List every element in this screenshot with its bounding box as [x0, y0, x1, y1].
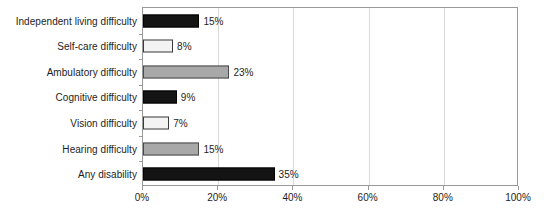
bar-value-label: 9% [181, 92, 195, 103]
bar [143, 142, 199, 155]
bar-value-label: 15% [203, 15, 223, 26]
bar-group: 35% [143, 168, 299, 181]
bar-value-label: 8% [177, 41, 191, 52]
bar-value-label: 7% [173, 118, 187, 129]
y-axis-tick [139, 136, 143, 137]
bar-group: 23% [143, 65, 253, 78]
category-label: Self-care difficulty [57, 41, 137, 52]
x-axis-tick [292, 186, 293, 190]
bar-row: Self-care difficulty8% [143, 34, 517, 60]
x-axis-tick [368, 186, 369, 190]
bar-group: 8% [143, 40, 192, 53]
x-axis-tick-label: 100% [505, 192, 531, 203]
bar [143, 40, 173, 53]
bar-chart: Independent living difficulty15%Self-car… [0, 0, 554, 216]
bar-row: Any disability35% [143, 161, 517, 187]
bar-row: Independent living difficulty15% [143, 8, 517, 34]
bar [143, 91, 177, 104]
y-axis-tick [139, 110, 143, 111]
category-label: Any disability [78, 169, 137, 180]
category-label: Ambulatory difficulty [47, 66, 137, 77]
y-axis-tick [139, 85, 143, 86]
bar-row: Hearing difficulty15% [143, 136, 517, 162]
bar [143, 168, 275, 181]
category-label: Hearing difficulty [62, 143, 137, 154]
x-axis-tick-label: 60% [358, 192, 378, 203]
category-label: Independent living difficulty [16, 15, 137, 26]
bar [143, 117, 169, 130]
y-axis-tick [139, 59, 143, 60]
x-axis-tick-label: 0% [135, 192, 149, 203]
bar-group: 15% [143, 14, 223, 27]
x-axis-tick [443, 186, 444, 190]
x-axis: 0%20%40%60%80%100% [142, 186, 518, 216]
bar-value-label: 35% [279, 169, 299, 180]
x-axis-tick-label: 40% [282, 192, 302, 203]
y-axis-tick [139, 161, 143, 162]
bar-row: Ambulatory difficulty23% [143, 59, 517, 85]
bar-row: Cognitive difficulty9% [143, 85, 517, 111]
x-axis-tick [217, 186, 218, 190]
x-axis-tick [518, 186, 519, 190]
category-label: Cognitive difficulty [56, 92, 137, 103]
category-label: Vision difficulty [70, 118, 137, 129]
x-axis-tick [142, 186, 143, 190]
bar [143, 14, 199, 27]
plot-area: Independent living difficulty15%Self-car… [142, 7, 518, 186]
y-axis-tick [139, 34, 143, 35]
bar-group: 15% [143, 142, 223, 155]
bar-group: 7% [143, 117, 188, 130]
bar-row: Vision difficulty7% [143, 110, 517, 136]
bar-value-label: 15% [203, 143, 223, 154]
bar-group: 9% [143, 91, 195, 104]
bar-value-label: 23% [233, 66, 253, 77]
x-axis-tick-label: 80% [433, 192, 453, 203]
x-axis-tick-label: 20% [207, 192, 227, 203]
bar [143, 65, 229, 78]
